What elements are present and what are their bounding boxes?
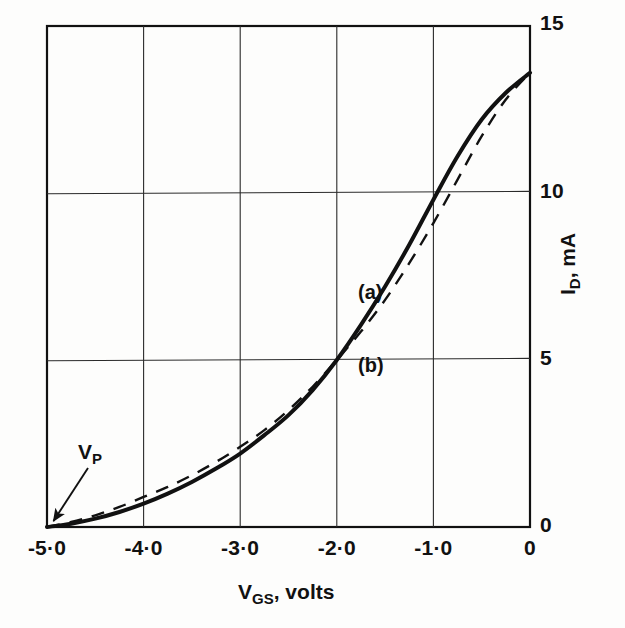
gridlines-horizontal [47,191,530,360]
vp-annotation-arrow [54,468,89,521]
curve-b-dashed [47,73,530,527]
curve-label-b: (b) [358,354,384,377]
y-axis-title: ID, mA [556,233,583,295]
y-tick-label: 0 [540,513,552,537]
x-tick-label: -3·0 [221,536,259,560]
curve-label-a: (a) [358,281,382,304]
plot-frame [47,26,530,527]
curve-a-solid [47,73,530,527]
x-axis-title-tail: , volts [274,580,335,603]
y-axis-title-tail: , mA [556,233,579,279]
figure-page: -5·0 -4·0 -3·0 -2·0 -1·0 0 0 5 10 15 VGS… [0,0,625,628]
transfer-characteristic-chart [0,0,625,628]
gridline-horizontal [47,358,530,360]
pinch-off-voltage-label: VP [78,440,102,467]
y-tick-label: 5 [540,346,552,370]
data-curves [47,73,530,527]
x-tick-label: -4·0 [125,536,163,560]
plot-border [47,26,530,527]
y-axis-title-subscript: D [566,278,583,289]
x-axis-title-subscript: GS [252,590,274,607]
x-axis-title-main: V [238,580,252,603]
y-axis-title-main: I [556,289,579,295]
gridline-horizontal [47,191,530,193]
vp-label-main: V [78,440,92,463]
y-tick-label: 15 [540,11,564,35]
vp-label-subscript: P [92,450,102,467]
x-tick-label: -1·0 [414,536,452,560]
x-tick-label: 0 [524,536,536,560]
x-tick-label: -2·0 [318,536,356,560]
y-tick-label: 10 [540,179,564,203]
x-tick-label: -5·0 [28,536,66,560]
x-axis-title: VGS, volts [238,580,334,607]
vp-arrow-line [54,468,89,521]
